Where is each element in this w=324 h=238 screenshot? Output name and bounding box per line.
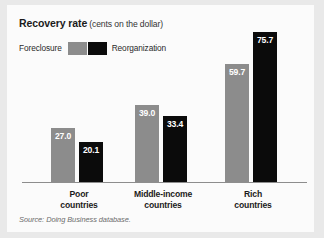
bar-value-reorganization-middle-income-countries: 33.4 xyxy=(163,119,187,129)
bar-reorganization-poor-countries: 20.1 xyxy=(79,142,103,182)
bar-value-reorganization-rich-countries: 75.7 xyxy=(253,35,277,45)
bar-value-foreclosure-poor-countries: 27.0 xyxy=(51,131,75,141)
source-publication: Doing Business xyxy=(46,215,97,224)
bar-reorganization-middle-income-countries: 33.4 xyxy=(163,116,187,182)
bar-foreclosure-poor-countries: 27.0 xyxy=(51,128,75,182)
x-axis-label-rich-countries: Rich countries xyxy=(198,189,308,210)
bar-reorganization-rich-countries: 75.7 xyxy=(253,32,277,182)
x-axis-line xyxy=(22,182,307,183)
source-prefix: Source: xyxy=(19,215,44,224)
x-axis-label-line-1: Rich xyxy=(198,189,308,200)
plot-area: 27.0 20.1 39.0 33.4 59.7 75.7 Poor c xyxy=(7,5,314,232)
source-suffix: database. xyxy=(99,215,131,224)
source-note: Source: Doing Business database. xyxy=(19,215,131,224)
bar-foreclosure-rich-countries: 59.7 xyxy=(225,64,249,183)
bar-value-reorganization-poor-countries: 20.1 xyxy=(79,145,103,155)
bar-value-foreclosure-rich-countries: 59.7 xyxy=(225,67,249,77)
x-axis-label-line-2: countries xyxy=(198,200,308,211)
chart-figure: Recovery rate(cents on the dollar) Forec… xyxy=(0,0,324,238)
bar-value-foreclosure-middle-income-countries: 39.0 xyxy=(135,108,159,118)
bar-foreclosure-middle-income-countries: 39.0 xyxy=(135,105,159,182)
chart-panel: Recovery rate(cents on the dollar) Forec… xyxy=(7,5,314,232)
